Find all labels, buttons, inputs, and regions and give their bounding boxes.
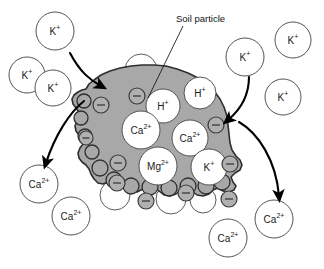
particle-lobe <box>123 178 139 194</box>
bound-ion-mg: Mg2+ <box>139 147 177 185</box>
negative-charge <box>178 185 194 201</box>
negative-charge <box>109 175 125 191</box>
bound-ion-ca1: Ca2+ <box>122 111 160 149</box>
arrow-ca-out-right <box>239 122 279 196</box>
annotation-layer: Soil particle <box>176 13 225 24</box>
free-ion-ca-rightout: Ca2+ <box>255 200 293 238</box>
negative-charge <box>110 155 126 171</box>
negative-charge <box>138 193 154 209</box>
particle-lobe <box>92 160 108 176</box>
soil-particle-diagram: H+ H+Ca2+Ca2+Mg2+K+ K+K+K+K+K+K+Ca2+Ca2+… <box>0 0 324 269</box>
particle-lobe <box>74 111 88 125</box>
free-ion-k-right: K+ <box>265 79 301 115</box>
negative-charge <box>222 156 238 172</box>
negative-charge <box>221 191 237 207</box>
negative-charge <box>208 117 224 133</box>
free-ion-k-topleft: K+ <box>36 12 74 50</box>
free-ion-k-left-lower: K+ <box>35 70 71 106</box>
free-ion-ca-leftout: Ca2+ <box>20 165 58 203</box>
negative-charge <box>93 97 109 113</box>
negative-charge <box>79 131 93 145</box>
free-ion-ca-bottommid: Ca2+ <box>209 219 247 257</box>
particle-lobe <box>85 145 99 159</box>
free-ion-ca-bottomleft: Ca2+ <box>52 197 90 235</box>
diagram-canvas: H+ H+Ca2+Ca2+Mg2+K+ K+K+K+K+K+K+Ca2+Ca2+… <box>0 0 324 269</box>
free-ion-k-farright: K+ <box>275 22 311 58</box>
edge-ion-h-top: H+ <box>184 77 216 109</box>
negative-charge <box>129 88 145 104</box>
soil-particle-label: Soil particle <box>176 13 225 24</box>
free-ion-k-topright: K+ <box>226 38 264 76</box>
bound-ion-k: K+ <box>191 149 227 185</box>
arrow-k-in-right <box>228 77 249 120</box>
edge-ion-layer: H+ <box>184 77 216 109</box>
